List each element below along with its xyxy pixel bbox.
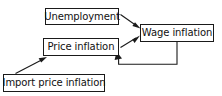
node-unemployment: Unemployment — [45, 8, 119, 25]
edge-import-price-inflation-to-price-inflation — [16, 57, 48, 74]
node-wage-inflation-label: Wage inflation — [142, 28, 212, 38]
node-price-inflation-label: Price inflation — [48, 42, 115, 52]
node-wage-inflation: Wage inflation — [140, 24, 214, 42]
node-unemployment-label: Unemployment — [44, 12, 120, 22]
edge-unemployment-to-wage-inflation — [121, 15, 141, 29]
node-price-inflation: Price inflation — [43, 38, 119, 56]
edge-price-inflation-to-wage-inflation — [121, 36, 141, 48]
node-import-price-inflation-label: Import price inflation — [3, 78, 106, 88]
node-import-price-inflation: Import price inflation — [3, 74, 105, 92]
flow-diagram: Unemployment Wage inflation Price inflat… — [0, 0, 222, 96]
